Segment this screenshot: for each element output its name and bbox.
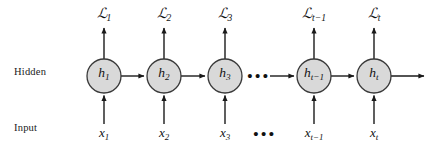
- script-l-glyph: ℒ: [302, 5, 312, 21]
- h-glyph: h: [158, 65, 165, 80]
- loss-subscript: 2: [167, 13, 172, 23]
- loss-subscript: 1: [107, 13, 112, 23]
- input-label-3: x3: [220, 126, 230, 141]
- loss-subscript: t−1: [312, 13, 326, 23]
- h-glyph: h: [304, 65, 311, 80]
- input-ellipsis: •••: [253, 127, 276, 142]
- input-to-hidden-arrows: [104, 96, 374, 125]
- loss-subscript: t: [378, 13, 381, 23]
- h-glyph: h: [98, 65, 105, 80]
- input-label-t: xt: [370, 126, 378, 141]
- input-subscript: 2: [165, 132, 169, 142]
- hidden-node-label-3: h3: [219, 66, 230, 82]
- hidden-node-label-1: h1: [98, 66, 109, 82]
- script-l-glyph: ℒ: [368, 5, 378, 21]
- hidden-subscript: 3: [226, 72, 231, 82]
- hidden-ellipsis: •••: [247, 69, 270, 84]
- h-glyph: h: [219, 65, 226, 80]
- h-glyph: h: [369, 65, 376, 80]
- hidden-subscript: 2: [165, 72, 170, 82]
- loss-label-t: ℒt: [368, 6, 381, 23]
- loss-label-2: ℒ2: [157, 6, 172, 23]
- loss-label-3: ℒ3: [218, 6, 233, 23]
- input-label-1: x1: [99, 126, 109, 141]
- loss-label-1: ℒ1: [97, 6, 112, 23]
- input-subscript: t−1: [310, 132, 323, 142]
- input-subscript: t: [376, 132, 378, 142]
- script-l-glyph: ℒ: [218, 5, 228, 21]
- script-l-glyph: ℒ: [157, 5, 167, 21]
- row-label-hidden: Hidden: [14, 66, 46, 77]
- script-l-glyph: ℒ: [97, 5, 107, 21]
- hidden-subscript: 1: [105, 72, 110, 82]
- hidden-node-label-t: ht: [369, 66, 378, 82]
- hidden-subscript: t: [376, 72, 379, 82]
- loss-label-t-minus-1: ℒt−1: [302, 6, 326, 23]
- hidden-node-label-2: h2: [158, 66, 169, 82]
- input-subscript: 1: [105, 132, 109, 142]
- hidden-node-label-t-minus-1: ht−1: [304, 66, 324, 82]
- rnn-diagram: Hidden Input ℒ1 ℒ2 ℒ3 ℒt−1 ℒt h1 h2 h3 h…: [0, 0, 435, 151]
- input-label-t-minus-1: xt−1: [305, 126, 324, 141]
- hidden-to-loss-arrows: [104, 28, 374, 59]
- loss-subscript: 3: [228, 13, 233, 23]
- hidden-subscript: t−1: [311, 72, 324, 82]
- row-label-input: Input: [14, 122, 37, 133]
- input-subscript: 3: [226, 132, 230, 142]
- input-label-2: x2: [159, 126, 169, 141]
